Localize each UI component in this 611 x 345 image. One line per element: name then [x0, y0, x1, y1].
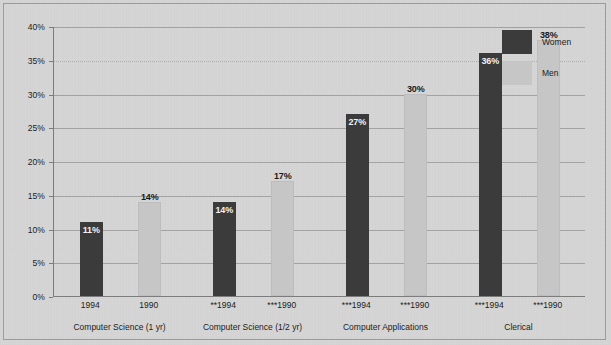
y-axis-tick-label: 30% — [0, 90, 45, 100]
bar-value-label: 14% — [207, 205, 241, 215]
x-axis-tick-label: 1990 — [114, 300, 184, 310]
y-axis-tick-label: 5% — [0, 258, 45, 268]
y-axis-tick-label: 15% — [0, 191, 45, 201]
bar-value-label: 14% — [133, 192, 167, 202]
bar-women — [213, 202, 236, 297]
bar-women — [346, 114, 369, 296]
bar-women — [479, 53, 502, 296]
y-axis-tick-label: 20% — [0, 157, 45, 167]
gridline — [54, 95, 585, 96]
legend-label: Men — [542, 68, 559, 78]
legend-swatch — [502, 30, 532, 54]
gridline — [54, 27, 585, 28]
gridline — [54, 230, 585, 231]
gridline — [54, 128, 585, 129]
y-axis: 0%5%10%15%20%25%30%35%40% — [0, 27, 49, 297]
x-axis-tick-label: ***1990 — [380, 300, 450, 310]
y-axis-tick-label: 25% — [0, 123, 45, 133]
bar-men — [138, 202, 161, 297]
gridline — [54, 162, 585, 163]
bar-men — [404, 94, 427, 297]
bar-value-label: 11% — [74, 225, 108, 235]
legend-label: Women — [542, 37, 571, 47]
x-axis-tick-label: ***1990 — [247, 300, 317, 310]
bar-value-label: 27% — [340, 117, 374, 127]
y-axis-tick-label: 35% — [0, 56, 45, 66]
bar-value-label: 17% — [266, 171, 300, 181]
x-axis-group-labels: Computer Science (1 yr)Computer Science … — [0, 322, 611, 338]
gridline — [54, 263, 585, 264]
x-axis-group-label: Clerical — [439, 322, 599, 332]
chart-page: 0%5%10%15%20%25%30%35%40% 11%14%14%17%27… — [0, 0, 611, 345]
y-axis-tick-mark — [49, 297, 53, 298]
bar-men — [271, 181, 294, 296]
bar-value-label: 30% — [399, 84, 433, 94]
y-axis-tick-label: 40% — [0, 22, 45, 32]
legend: WomenMen — [500, 29, 586, 89]
legend-item: Women — [500, 29, 586, 55]
x-axis-tick-label: ***1990 — [513, 300, 583, 310]
legend-item: Men — [500, 60, 586, 86]
legend-swatch — [502, 61, 532, 85]
x-axis-tick-labels: 19941990**1994***1990***1994***1990***19… — [0, 300, 611, 314]
y-axis-tick-label: 10% — [0, 225, 45, 235]
